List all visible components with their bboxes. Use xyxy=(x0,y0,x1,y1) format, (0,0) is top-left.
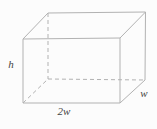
top-back-edge xyxy=(48,12,146,13)
rectangular-prism-diagram: h2ww xyxy=(0,0,157,129)
bottom-left-depth-edge xyxy=(23,79,48,103)
back-right-edge xyxy=(145,12,146,80)
box-diagram-canvas: h2ww xyxy=(0,0,157,129)
top-right-depth-edge xyxy=(120,12,146,38)
height-label: h xyxy=(8,58,14,70)
top-left-depth-edge xyxy=(23,13,48,39)
base-width-label: 2w xyxy=(58,105,72,117)
bottom-back-edge xyxy=(48,79,145,80)
depth-label: w xyxy=(140,87,148,99)
front-top-edge xyxy=(23,38,120,39)
